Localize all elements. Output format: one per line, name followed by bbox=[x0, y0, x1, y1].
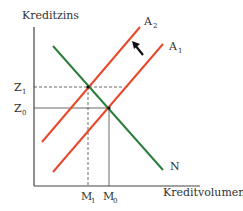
m1-sub: 1 bbox=[91, 197, 95, 205]
z1-sub: 1 bbox=[22, 88, 26, 96]
z0-sub: 0 bbox=[22, 109, 26, 117]
a1-sub: 1 bbox=[178, 47, 182, 55]
x-axis-label: Kreditvolumen bbox=[163, 186, 243, 199]
a2-label: A bbox=[143, 15, 153, 28]
z1-label: Z bbox=[14, 81, 22, 94]
a2-sub: 2 bbox=[153, 22, 157, 30]
a1-label: A bbox=[168, 40, 178, 53]
equilibrium-point-0 bbox=[107, 106, 110, 109]
z0-label: Z bbox=[14, 102, 22, 115]
shift-arrow-icon bbox=[132, 41, 143, 55]
credit-market-diagram: Kreditzins Kreditvolumen A 2 A 1 N Z 1 Z… bbox=[0, 0, 243, 211]
m0-sub: 0 bbox=[113, 197, 117, 205]
supply-curve-a2 bbox=[42, 27, 140, 142]
y-axis-label: Kreditzins bbox=[22, 9, 79, 22]
n-label: N bbox=[170, 160, 180, 173]
equilibrium-point-1 bbox=[86, 85, 89, 88]
diagram-canvas: Kreditzins Kreditvolumen A 2 A 1 N Z 1 Z… bbox=[0, 0, 243, 211]
